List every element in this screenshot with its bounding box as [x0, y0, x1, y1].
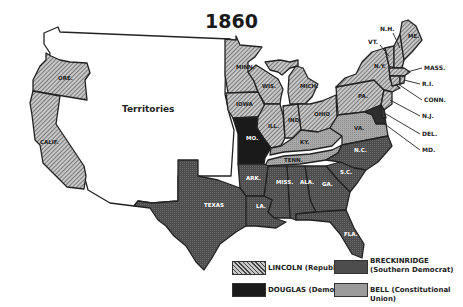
state-label: ARK.	[246, 175, 261, 181]
callout-label: VT.	[368, 38, 378, 45]
legend-sublabel-breckinridge: (Southern Democrat)	[370, 266, 454, 275]
state-label: MICH.	[300, 83, 318, 89]
state-label: N.C.	[354, 147, 367, 153]
callout-label: CONN.	[424, 96, 446, 103]
state-label: TEXAS	[204, 202, 224, 208]
state-label: N.Y.	[374, 63, 386, 69]
legend-swatch-douglas	[232, 283, 266, 297]
state-label: TENN.	[284, 157, 303, 163]
state-label: MO.	[246, 135, 258, 141]
state-label: OHIO	[314, 111, 330, 117]
callout-label: N.J.	[422, 112, 434, 120]
state-label: IND.	[288, 117, 301, 123]
callout-label: R.I.	[422, 80, 434, 87]
state-label: S.C.	[340, 169, 352, 175]
state-label: ILL.	[268, 123, 279, 129]
state-label: MISS.	[276, 179, 293, 185]
state-label: FLA.	[344, 231, 358, 237]
callout-label: MD.	[422, 146, 435, 153]
callout-label: N.H.	[380, 25, 395, 32]
state-label: GA.	[322, 181, 333, 187]
callout-label: DEL.	[422, 130, 437, 137]
state-label: MINN.	[236, 64, 255, 70]
state-label: IOWA	[236, 101, 254, 107]
state-label: ME.	[408, 33, 419, 39]
legend-swatch-lincoln	[232, 261, 266, 275]
state-maine	[400, 20, 422, 60]
callout-label: MASS.	[424, 64, 445, 71]
state-label: CALIF.	[40, 139, 59, 145]
state-label: LA.	[256, 203, 266, 209]
legend-label-breckinridge: BRECKINRIDGE	[370, 257, 429, 266]
state-label: ALA.	[300, 179, 314, 185]
legend-swatch-bell	[334, 283, 368, 297]
state-label: PA.	[358, 93, 368, 99]
state-label: VA.	[354, 125, 364, 131]
state-label: WIS.	[262, 83, 276, 89]
territories-label: Territories	[122, 104, 174, 114]
legend-label-bell: BELL (Constitutional Union)	[370, 286, 463, 304]
state-massachusetts	[389, 68, 410, 76]
state-label: ORE.	[58, 75, 73, 81]
legend-swatch-breckinridge	[334, 260, 368, 274]
state-label: KY.	[300, 139, 309, 145]
